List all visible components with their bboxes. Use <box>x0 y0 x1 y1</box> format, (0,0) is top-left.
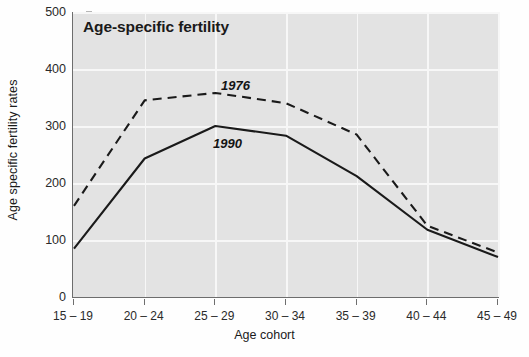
series-line-1990 <box>74 126 498 257</box>
x-axis-title: Age cohort <box>0 328 529 342</box>
y-tick-label: 400 <box>24 62 66 76</box>
y-axis-title-text: Age specific fertility rates <box>6 79 20 220</box>
series-label-1990: 1990 <box>213 136 242 151</box>
chart-title: Age-specific fertility <box>83 18 229 36</box>
x-tick-mark <box>426 299 427 305</box>
plot-inner: 19761990 <box>73 12 499 297</box>
x-tick-mark <box>144 299 145 305</box>
x-tick-mark <box>73 299 74 305</box>
plot-area: 19761990 Age-specific fertility <box>72 12 499 298</box>
x-tick-label: 25 – 29 <box>194 309 234 323</box>
y-tick-label: 300 <box>24 119 66 133</box>
x-tick-label: 35 – 39 <box>336 309 376 323</box>
x-tick-mark <box>356 299 357 305</box>
y-tick-label: 200 <box>24 176 66 190</box>
x-tick-mark <box>214 299 215 305</box>
series-line-1976 <box>74 93 498 253</box>
x-tick-label: 40 – 44 <box>406 309 446 323</box>
x-tick-label: 45 – 49 <box>477 309 517 323</box>
y-axis-tick-labels: 0100200300400500 <box>20 0 66 357</box>
x-tick-label: 20 – 24 <box>124 309 164 323</box>
series-layer <box>73 12 499 297</box>
y-tick-label: 100 <box>24 233 66 247</box>
x-tick-label: 30 – 34 <box>265 309 305 323</box>
x-tick-label: 15 – 19 <box>53 309 93 323</box>
chart-figure: Age specific fertility rates 01002003004… <box>0 0 529 357</box>
x-axis-tick-labels: 15 – 1920 – 2425 – 2930 – 3435 – 3940 – … <box>72 299 500 329</box>
x-tick-mark <box>285 299 286 305</box>
y-tick-label: 500 <box>24 5 66 19</box>
x-tick-mark <box>497 299 498 305</box>
y-tick-label: 0 <box>24 290 66 304</box>
series-label-1976: 1976 <box>221 78 250 93</box>
